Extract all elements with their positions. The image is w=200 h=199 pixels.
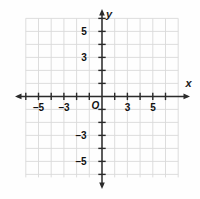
y-tick-label-5: 5 (79, 27, 89, 37)
y-tick-label-neg5: –5 (73, 157, 89, 167)
y-axis-arrow-bottom (99, 183, 105, 190)
y-tick-label-neg3: –3 (73, 131, 89, 141)
y-axis-label: y (106, 9, 112, 20)
x-axis-arrow-left (15, 94, 22, 100)
x-axis-arrow-right (184, 94, 191, 100)
y-tick-label-3: 3 (79, 53, 89, 63)
y-axis-arrow-top (99, 9, 105, 16)
coordinate-plane-figure: –5 –3 3 5 5 3 –3 –5 O x y (0, 0, 200, 199)
origin-label: O (92, 101, 100, 111)
x-tick-label-neg5: –5 (31, 103, 47, 113)
x-tick-label-3: 3 (123, 103, 133, 113)
x-axis-label: x (186, 78, 192, 89)
coordinate-grid-svg (0, 0, 200, 199)
x-tick-label-5: 5 (148, 103, 158, 113)
x-tick-label-neg3: –3 (56, 103, 72, 113)
